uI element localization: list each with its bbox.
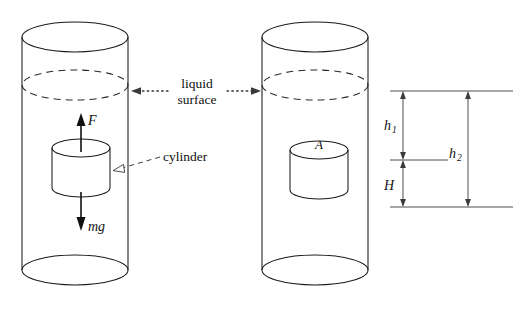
liquid-surface-arrow-left (131, 87, 141, 95)
dimension-h2-arrowhead-down (465, 199, 471, 207)
liquid-surface-callout: liquid surface (131, 76, 261, 107)
dimension-H-arrowhead-up (400, 160, 406, 168)
dimension-h1: h 1 (384, 91, 406, 160)
dimension-annotations: h 1 H h 2 (383, 91, 513, 207)
buoyant-force-arrowhead (77, 113, 86, 126)
right-vessel-top-ellipse (262, 22, 368, 52)
buoyancy-figure: F mg liquid surface cylinder (0, 0, 515, 316)
right-vessel-bottom-ellipse (262, 255, 368, 285)
cylinder-callout: cylinder (113, 149, 208, 172)
buoyant-force-label: F (87, 113, 97, 128)
dimension-h2-arrowhead-up (465, 91, 471, 99)
dimension-h2-label: h (449, 146, 456, 161)
dimension-h1-arrowhead-up (400, 91, 406, 99)
dimension-h1-arrowhead-down (400, 152, 406, 160)
cylinder-leader-arrowhead (113, 164, 125, 172)
weight-force-label: mg (88, 219, 105, 234)
physics-diagram: F mg liquid surface cylinder (0, 0, 515, 316)
left-vessel-bottom-ellipse (22, 255, 128, 285)
right-liquid-surface-ellipse (262, 70, 368, 100)
left-liquid-surface-ellipse (22, 70, 128, 100)
area-label: A (314, 137, 323, 152)
force-arrows: F mg (77, 113, 106, 234)
dimension-h2: h 2 (449, 91, 471, 207)
cylinder-label: cylinder (163, 149, 208, 164)
liquid-surface-arrow-right (251, 87, 261, 95)
dimension-h1-label-subscript: 1 (392, 125, 397, 135)
left-vessel-top-ellipse (22, 22, 128, 52)
right-block-bottom-arc (290, 190, 348, 199)
dimension-H-arrowhead-down (400, 199, 406, 207)
liquid-surface-label-line1: liquid (181, 76, 213, 91)
dimension-H: H (383, 160, 406, 207)
right-vessel (262, 22, 368, 285)
right-inner-cylinder: A (290, 137, 348, 199)
dimension-h1-label: h (384, 118, 391, 133)
weight-force-arrowhead (77, 217, 86, 231)
left-vessel (22, 22, 128, 285)
liquid-surface-label-line2: surface (178, 92, 217, 107)
dimension-H-label: H (383, 178, 395, 193)
dimension-h2-label-subscript: 2 (457, 153, 462, 163)
